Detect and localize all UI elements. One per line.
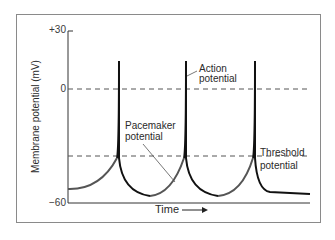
pacemaker-segment-1 — [68, 158, 117, 189]
y-axis-title: Membrane potential (mV) — [30, 60, 41, 173]
action-leader — [187, 71, 197, 76]
threshold-label-2: potential — [260, 160, 298, 171]
pacemaker-label-2: potential — [125, 131, 163, 142]
time-arrow-head — [202, 207, 208, 213]
x-axis-title: Time — [155, 204, 179, 215]
action-potential-3 — [253, 61, 310, 194]
y-tick-zero: 0 — [38, 83, 66, 94]
pacemaker-label-1: Pacemaker — [125, 120, 176, 131]
threshold-label-1: Threshold — [260, 147, 304, 158]
pacemaker-segment-3 — [218, 158, 253, 196]
pacemaker-segment-2 — [150, 158, 184, 196]
y-tick-bottom: −60 — [38, 197, 66, 208]
y-axis — [68, 31, 73, 203]
action-label-2: potential — [199, 73, 237, 84]
pacemaker-leader — [143, 144, 175, 182]
y-tick-top: +30 — [38, 24, 66, 35]
